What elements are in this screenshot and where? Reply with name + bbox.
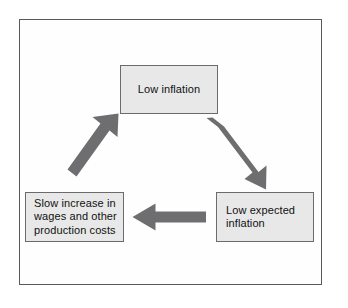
node-slow-increase-label: Slow increase in wages and other product…: [34, 197, 117, 238]
arrow-low-expected-inflation-to-slow-increase: [133, 204, 207, 231]
arrow-low-inflation-to-low-expected-inflation: [207, 118, 267, 190]
node-low-inflation-label: Low inflation: [138, 83, 200, 97]
node-low-expected-inflation[interactable]: Low expected inflation: [216, 192, 314, 242]
arrow-layer: [0, 0, 348, 308]
node-slow-increase[interactable]: Slow increase in wages and other product…: [25, 192, 124, 242]
arrow-slow-increase-to-low-inflation: [68, 114, 119, 177]
cycle-diagram-figure: Low inflation Low expected inflation Slo…: [0, 0, 348, 308]
node-low-expected-inflation-label: Low expected inflation: [226, 204, 295, 231]
node-low-inflation[interactable]: Low inflation: [120, 65, 218, 114]
